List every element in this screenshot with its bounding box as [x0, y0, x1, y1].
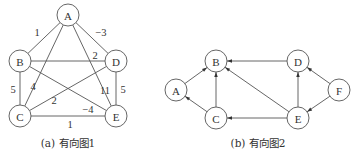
edge-weight-B-D: 2: [92, 50, 97, 61]
node-C: C: [9, 105, 31, 127]
node-label: C: [16, 111, 23, 123]
edge-weight-B-C: 5: [10, 84, 15, 95]
node-B: B: [205, 50, 227, 72]
node-E: E: [105, 105, 127, 127]
node-E: E: [287, 107, 309, 129]
edge-A-B: [28, 23, 60, 54]
node-B: B: [9, 50, 31, 72]
edge-weight-A-C: 4: [30, 81, 36, 92]
node-label: F: [336, 85, 342, 97]
node-label: C: [212, 113, 219, 125]
node-label: E: [113, 111, 120, 123]
node-label: A: [172, 85, 180, 97]
node-label: A: [64, 10, 72, 22]
node-label: B: [212, 56, 219, 68]
edge-C-A: [185, 96, 207, 111]
node-label: E: [295, 113, 302, 125]
edge-weight-A-B: 1: [34, 27, 39, 38]
graph2-caption: (b) 有向图2: [231, 137, 286, 149]
graph2-edges: [185, 61, 330, 118]
node-D: D: [105, 50, 127, 72]
edge-weight-C-E: 1: [67, 119, 72, 130]
edge-weight-C-D: 2: [51, 95, 56, 106]
edge-A-B: [185, 67, 207, 83]
node-F: F: [328, 79, 350, 101]
graph1-nodes: ABDCE: [9, 4, 127, 127]
edge-E-B: [225, 67, 289, 111]
node-label: B: [16, 56, 23, 68]
edge-weight-A-D: −3: [95, 27, 106, 38]
edge-F-E: [307, 96, 330, 112]
node-A: A: [57, 4, 79, 26]
edge-weight-B-E: −4: [82, 104, 94, 115]
edge-weight-D-E: 5: [120, 84, 125, 95]
node-D: D: [287, 50, 309, 72]
node-A: A: [165, 79, 187, 101]
graph-diagram: ABDCE 1−34112−42551 (a) 有向图1 ABCDEF (b) …: [0, 0, 355, 158]
edge-weight-A-E: 11: [100, 85, 110, 96]
graph1-caption: (a) 有向图1: [41, 137, 95, 149]
edge-F-D: [307, 67, 330, 83]
node-label: D: [294, 56, 302, 68]
node-label: D: [112, 56, 120, 68]
node-C: C: [205, 107, 227, 129]
